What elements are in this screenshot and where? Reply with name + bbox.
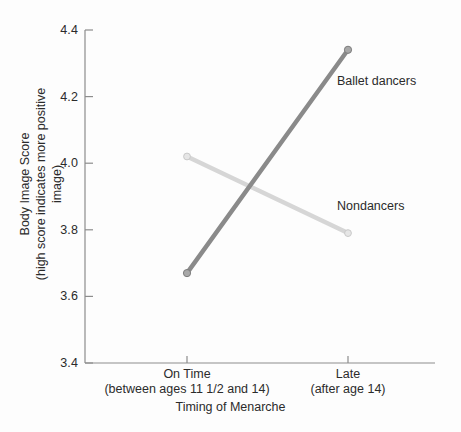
x-axis-ticks [187,356,348,363]
series-ballet-dancers-point-on-time [183,270,190,277]
series-ballet-dancers [183,46,351,277]
x-category-sublabel-late: (after age 14) [268,382,428,397]
series-ballet-dancers-point-late [344,46,351,53]
series-nondancers [184,153,352,236]
y-axis-title-line2: (high score indicates more positive imag… [33,79,65,289]
y-axis-title-line1: Body Image Score [18,133,32,236]
series-nondancers-segment [187,157,348,234]
x-category-name-on-time: On Time [163,367,210,381]
x-category-label-late: Late [268,367,428,382]
x-category-sub-on-time: (between ages 11 1/2 and 14) [104,382,269,396]
series-label-ballet-dancers: Ballet dancers [337,74,416,88]
series-label-nondancers: Nondancers [337,199,404,213]
x-axis-title: Timing of Menarche [0,400,461,414]
series-nondancers-point-late [345,230,352,237]
series-nondancers-point-on-time [184,153,191,160]
y-tick-label-4-4: 4.4 [45,23,78,37]
x-category-sub-late: (after age 14) [310,382,385,396]
series-ballet-dancers-segment [187,50,348,273]
x-category-name-late: Late [336,367,360,381]
y-axis-title: Body Image Score (high score indicates m… [17,79,65,289]
y-tick-label-3-6: 3.6 [45,289,78,303]
chart-figure: 4.4 4.2 4.0 3.8 3.6 3.4 On Time (between… [0,0,461,432]
y-axis-ticks [85,30,93,363]
